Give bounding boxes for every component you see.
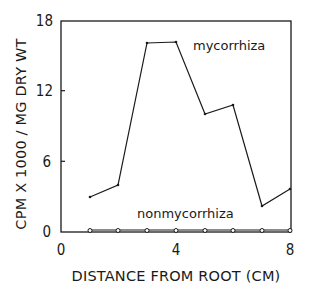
- x-axis-label: DISTANCE FROM ROOT (CM): [72, 268, 281, 284]
- x-tick-label-8: 8: [286, 241, 295, 259]
- series-mycorrhiza-line: [90, 42, 290, 206]
- series-label-nonmycorrhiza: nonmycorrhiza: [137, 206, 234, 221]
- x-tick-label-4: 4: [172, 241, 181, 259]
- series-label-mycorrhiza: mycorrhiza: [193, 38, 265, 53]
- y-axis-label: CPM X 1000 / MG DRY WT: [13, 38, 29, 229]
- y-tick-label-6: 6: [42, 153, 51, 171]
- y-tick-label-18: 18: [36, 12, 53, 30]
- x-tick-label-0: 0: [57, 241, 66, 259]
- y-tick-label-0: 0: [42, 223, 51, 241]
- y-tick-label-12: 12: [36, 82, 53, 100]
- line-chart: 0 6 12 18 0 4 8 DISTANCE FROM ROOT (CM) …: [0, 0, 310, 300]
